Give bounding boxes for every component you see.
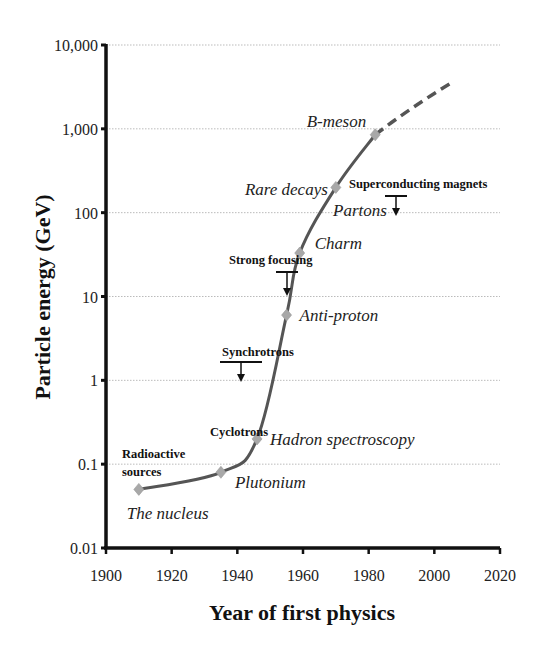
- y-tick-label: 1,000: [62, 121, 98, 138]
- extrapolation-dashed-line: [375, 81, 454, 135]
- point-label: Hadron spectroscopy: [269, 430, 415, 449]
- y-tick-label: 1: [90, 372, 98, 389]
- diamond-marker-icon: [216, 466, 226, 478]
- point-label: Rare decays: [244, 180, 328, 199]
- x-tick-label: 1980: [353, 567, 385, 584]
- x-axis-ticks: 1900192019401960198020002020: [90, 548, 516, 584]
- y-axis-ticks: 0.010.11101001,00010,000: [54, 37, 106, 557]
- x-tick-label: 2000: [418, 567, 450, 584]
- x-tick-label: 1920: [156, 567, 188, 584]
- y-tick-label: 10: [82, 289, 98, 306]
- point-label: The nucleus: [127, 504, 209, 523]
- diamond-marker-icon: [282, 309, 292, 321]
- point-label: Anti-proton: [299, 306, 379, 325]
- annotation-label: Synchrotrons: [222, 345, 294, 359]
- y-tick-label: 10,000: [54, 37, 98, 54]
- series-lines: [139, 81, 454, 489]
- x-tick-label: 1940: [221, 567, 253, 584]
- annotation-label: sources: [122, 465, 161, 479]
- y-tick-label: 100: [74, 205, 98, 222]
- annotation-label: Cyclotrons: [210, 425, 268, 439]
- annotation-label: Superconducting magnets: [349, 177, 487, 191]
- point-label: Charm: [315, 234, 362, 253]
- arrow-down-icon: [392, 208, 400, 216]
- y-axis-title: Particle energy (GeV): [30, 194, 55, 399]
- annotation-label: Strong focusing: [229, 253, 313, 267]
- particle-energy-chart: 0.010.11101001,00010,000 190019201940196…: [0, 0, 545, 651]
- point-labels: The nucleusPlutoniumHadron spectroscopyA…: [127, 112, 415, 524]
- x-axis-title: Year of first physics: [209, 600, 395, 625]
- point-label: B-meson: [307, 112, 366, 131]
- annotation-label: Radioactive: [122, 447, 186, 461]
- diamond-marker-icon: [134, 483, 144, 495]
- point-label: Plutonium: [234, 473, 306, 492]
- y-tick-label: 0.01: [70, 540, 98, 557]
- x-tick-label: 1900: [90, 567, 122, 584]
- point-label-partons: Partons: [332, 201, 387, 220]
- x-tick-label: 2020: [484, 567, 516, 584]
- x-tick-label: 1960: [287, 567, 319, 584]
- y-tick-label: 0.1: [78, 456, 98, 473]
